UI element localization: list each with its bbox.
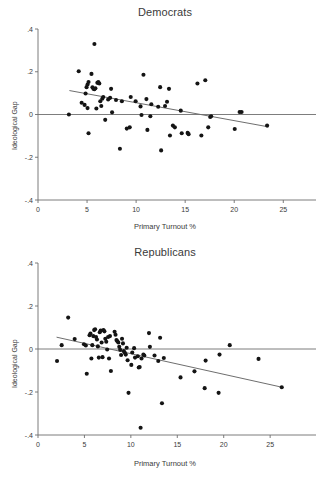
- y-axis-title-democrats: Ideological Gap: [11, 101, 18, 150]
- figure-container: Democrats -.4-.20.2.40510152025 Primary …: [0, 0, 330, 477]
- scatter-plot-republicans: -.4-.20.2.40510152025: [0, 240, 330, 477]
- x-axis-title-republicans: Primary Turnout %: [0, 459, 330, 468]
- y-tick-label: 0: [29, 346, 33, 353]
- scatter-point: [94, 106, 98, 110]
- scatter-point: [108, 334, 112, 338]
- scatter-point: [139, 356, 143, 360]
- scatter-point: [139, 113, 143, 117]
- scatter-point: [165, 100, 169, 104]
- scatter-point: [99, 104, 103, 108]
- y-tick-label: -.2: [25, 389, 33, 396]
- scatter-point: [113, 333, 117, 337]
- scatter-point: [101, 95, 105, 99]
- scatter-point: [160, 401, 164, 405]
- scatter-point: [204, 359, 208, 363]
- scatter-point: [93, 327, 97, 331]
- x-tick-label: 20: [230, 206, 238, 213]
- scatter-point: [156, 105, 160, 109]
- scatter-point: [132, 346, 136, 350]
- scatter-point: [84, 344, 88, 348]
- x-tick-label: 5: [82, 441, 86, 448]
- scatter-point: [73, 337, 77, 341]
- scatter-point: [199, 133, 203, 137]
- scatter-point: [104, 340, 108, 344]
- y-tick-label: -.4: [25, 432, 33, 439]
- scatter-point: [156, 359, 160, 363]
- scatter-point: [128, 125, 132, 129]
- scatter-point: [148, 345, 152, 349]
- scatter-point: [280, 385, 284, 389]
- panel-republicans: Republicans -.4-.20.2.40510152025 Primar…: [0, 240, 330, 477]
- y-tick-label: .2: [27, 303, 33, 310]
- scatter-point: [159, 148, 163, 152]
- scatter-point: [141, 73, 145, 77]
- scatter-point: [121, 341, 125, 345]
- scatter-points-group: [55, 316, 284, 430]
- scatter-point: [114, 98, 118, 102]
- x-tick-label: 10: [132, 206, 140, 213]
- y-tick-label: .2: [27, 68, 33, 75]
- scatter-point: [77, 69, 81, 73]
- scatter-point: [178, 375, 182, 379]
- scatter-point: [134, 99, 138, 103]
- scatter-point: [163, 104, 167, 108]
- scatter-point: [173, 125, 177, 129]
- x-tick-label: 15: [173, 441, 181, 448]
- scatter-point: [86, 131, 90, 135]
- scatter-point: [256, 357, 260, 361]
- scatter-point: [119, 353, 123, 357]
- x-tick-label: 15: [181, 206, 189, 213]
- y-tick-label: .4: [27, 260, 33, 267]
- scatter-point: [118, 348, 122, 352]
- x-tick-label: 10: [127, 441, 135, 448]
- scatter-point: [144, 97, 148, 101]
- scatter-point: [55, 359, 59, 363]
- scatter-point: [138, 365, 142, 369]
- y-tick-label: -.2: [25, 154, 33, 161]
- scatter-point: [107, 356, 111, 360]
- scatter-point: [126, 358, 130, 362]
- scatter-point: [129, 363, 133, 367]
- scatter-point: [96, 344, 100, 348]
- scatter-point: [203, 78, 207, 82]
- scatter-point: [124, 353, 128, 357]
- scatter-point: [103, 118, 107, 122]
- scatter-point: [187, 132, 191, 136]
- scatter-point: [158, 336, 162, 340]
- y-tick-label: 0: [29, 111, 33, 118]
- scatter-point: [240, 110, 244, 114]
- scatter-plot-democrats: -.4-.20.2.40510152025: [0, 0, 330, 240]
- scatter-point: [85, 372, 89, 376]
- scatter-point: [66, 316, 70, 320]
- scatter-point: [60, 343, 64, 347]
- scatter-point: [110, 110, 114, 114]
- panel-democrats: Democrats -.4-.20.2.40510152025 Primary …: [0, 0, 330, 240]
- scatter-point: [149, 102, 153, 106]
- scatter-point: [97, 356, 101, 360]
- scatter-point: [228, 343, 232, 347]
- scatter-point: [129, 95, 133, 99]
- scatter-point: [195, 81, 199, 85]
- scatter-point: [233, 127, 237, 131]
- scatter-point: [206, 125, 210, 129]
- scatter-point: [145, 128, 149, 132]
- scatter-point: [102, 329, 106, 333]
- scatter-point: [86, 80, 90, 84]
- scatter-point: [179, 109, 183, 113]
- scatter-point: [139, 426, 143, 430]
- scatter-point: [105, 347, 109, 351]
- scatter-point: [120, 337, 124, 341]
- regression-fit-line: [69, 91, 268, 127]
- x-axis-title-democrats: Primary Turnout %: [0, 222, 330, 231]
- scatter-point: [180, 131, 184, 135]
- scatter-point: [203, 386, 207, 390]
- scatter-point: [125, 346, 129, 350]
- scatter-point: [108, 96, 112, 100]
- scatter-point: [148, 114, 152, 118]
- y-tick-label: .4: [27, 26, 33, 33]
- scatter-point: [97, 81, 101, 85]
- x-tick-label: 0: [36, 206, 40, 213]
- scatter-point: [100, 341, 104, 345]
- x-tick-label: 25: [279, 206, 287, 213]
- scatter-point: [89, 72, 93, 76]
